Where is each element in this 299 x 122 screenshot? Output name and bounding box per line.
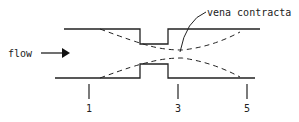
- bottom-pipe-wall: [55, 64, 255, 78]
- flow-label: flow: [8, 48, 33, 59]
- vena-contracta-leader: [180, 12, 206, 52]
- orifice-diagram: flow vena contracta 1 3 5: [0, 0, 299, 122]
- station-label-3: 3: [175, 103, 181, 114]
- flow-arrow-icon: [62, 48, 70, 58]
- top-streamline: [100, 29, 240, 50]
- vena-contracta-label: vena contracta: [207, 7, 291, 18]
- bottom-streamline: [100, 58, 240, 78]
- station-label-1: 1: [86, 103, 92, 114]
- station-label-5: 5: [244, 103, 250, 114]
